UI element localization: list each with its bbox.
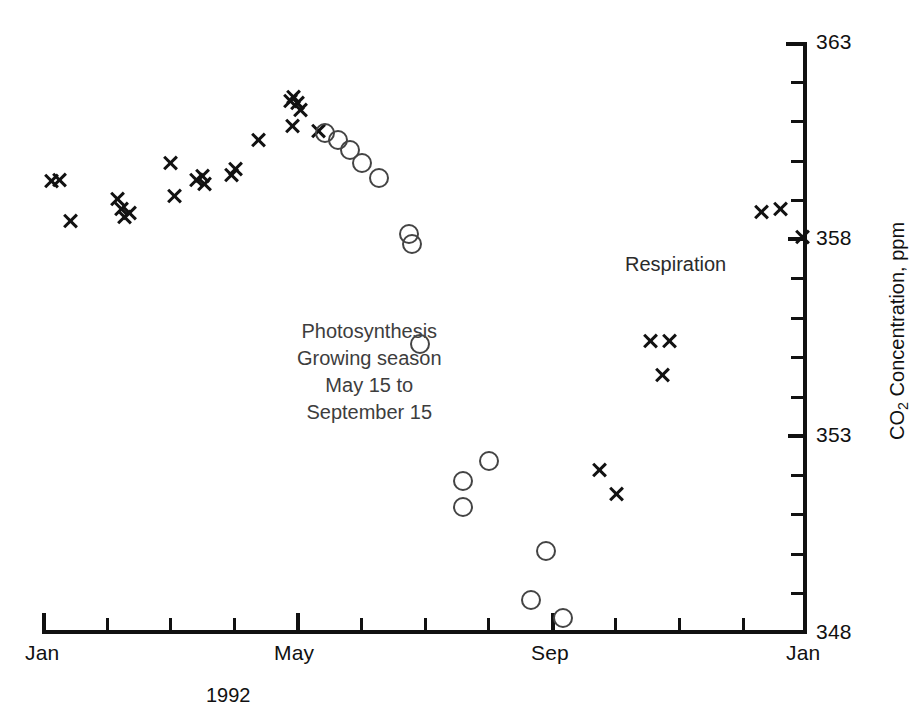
x-axis-left-cap (42, 613, 46, 632)
data-point-marker-circle (536, 541, 556, 561)
x-tick-label-jan-end: Jan (786, 641, 820, 665)
data-point-marker-x (196, 175, 214, 193)
y-tick-351 (791, 513, 804, 516)
data-point-marker-circle (453, 471, 473, 491)
x-tick-feb (106, 618, 109, 631)
y-tick-350 (791, 553, 804, 556)
y-axis-title-subscript: 2 (895, 402, 911, 410)
data-point-marker-x (661, 332, 679, 350)
data-point-marker-circle (553, 608, 573, 628)
y-tick-355 (791, 356, 804, 359)
data-point-marker-circle (410, 334, 430, 354)
data-point-marker-x (62, 212, 80, 230)
data-point-marker-x (284, 117, 302, 135)
data-point-marker-circle (369, 168, 389, 188)
y-tick-349 (791, 592, 804, 595)
data-point-marker-circle (402, 234, 422, 254)
y-tick-label-358: 358 (816, 226, 852, 250)
y-axis-title: CO2 Concentration, ppm (886, 222, 911, 440)
y-tick-356 (791, 317, 804, 320)
data-point-marker-x (772, 200, 790, 218)
data-point-marker-circle (453, 497, 473, 517)
data-point-marker-x (227, 160, 245, 178)
x-tick-aug (487, 618, 490, 631)
data-point-marker-x (608, 485, 626, 503)
photosynthesis-annotation-line-3: May 15 to (297, 372, 442, 399)
y-tick-label-363: 363 (816, 30, 852, 54)
x-tick-may (296, 613, 300, 631)
data-point-marker-x (162, 154, 180, 172)
data-point-marker-circle (521, 590, 541, 610)
data-point-marker-circle (352, 153, 372, 173)
x-tick-jul (424, 618, 427, 631)
data-point-marker-x (591, 461, 609, 479)
data-point-marker-x (642, 332, 660, 350)
y-tick-360 (791, 160, 804, 163)
y-axis-bottom-cap (786, 630, 807, 634)
x-tick-label-may: May (274, 641, 314, 665)
y-tick-359 (791, 199, 804, 202)
y-axis-title-pre: CO (886, 410, 908, 440)
data-point-marker-x (654, 366, 672, 384)
data-point-marker-x (753, 203, 771, 221)
x-tick-jun (360, 618, 363, 631)
y-tick-label-348: 348 (816, 620, 852, 644)
x-tick-oct (614, 618, 617, 631)
x-tick-nov (678, 618, 681, 631)
data-point-marker-x (51, 171, 69, 189)
y-tick-353 (788, 434, 804, 438)
x-tick-dec (742, 618, 745, 631)
y-axis-top-cap (786, 42, 807, 46)
y-tick-357 (791, 277, 804, 280)
data-point-marker-x (121, 204, 139, 222)
y-tick-352 (791, 474, 804, 477)
data-point-marker-x (166, 187, 184, 205)
photosynthesis-annotation-line-4: September 15 (297, 399, 442, 426)
data-point-marker-circle (479, 451, 499, 471)
y-tick-label-353: 353 (816, 423, 852, 447)
y-tick-354 (791, 396, 804, 399)
x-tick-apr (233, 618, 236, 631)
y-axis-line (803, 42, 807, 634)
y-tick-361 (791, 120, 804, 123)
data-point-marker-x (250, 131, 268, 149)
y-tick-362 (791, 81, 804, 84)
respiration-annotation: Respiration (625, 253, 726, 276)
co2-concentration-scatter-chart: Jan May Sep Jan 1992 363 358 353 348 CO2… (0, 0, 917, 725)
x-tick-label-sep: Sep (531, 641, 569, 665)
data-point-marker-x (794, 228, 812, 246)
y-axis-title-post: Concentration, ppm (886, 222, 908, 402)
x-tick-mar (169, 618, 172, 631)
x-axis-title: 1992 (206, 684, 251, 707)
x-tick-label-jan-start: Jan (25, 641, 59, 665)
